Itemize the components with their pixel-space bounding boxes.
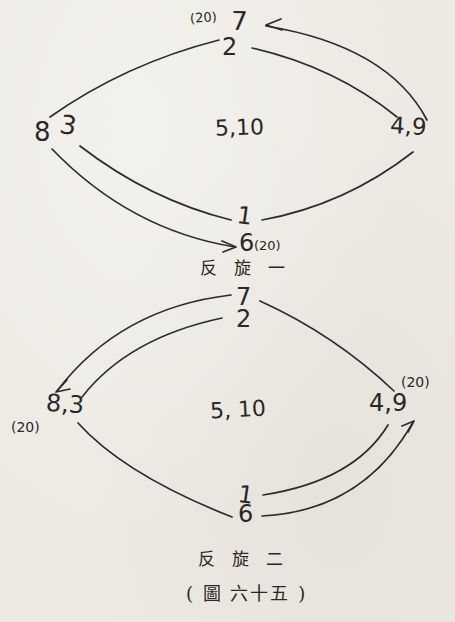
d2-arc-bottom-right-outer	[262, 424, 412, 516]
d1-arc-top-right-inner	[252, 48, 397, 117]
d1-node-6: 6	[239, 231, 254, 255]
scanned-page: (20) 7 2 8 3 5,10 4,9 1 6 (20) 反旋一 7 2 8…	[0, 0, 455, 622]
d2-arc-bottom-right-inner	[263, 425, 388, 495]
diagram-strokes	[0, 0, 455, 622]
d1-arc-top-right-outer	[266, 26, 427, 120]
d2-node-8-3: 8,3	[45, 391, 85, 418]
d2-node-4-9: 4,9	[369, 391, 407, 415]
d1-caption: 反旋一	[200, 260, 302, 277]
d1-node-2: 2	[222, 35, 237, 59]
d1-node-4-9: 4,9	[389, 114, 427, 139]
d2-count-20-right: (20)	[401, 375, 430, 389]
d2-arc-bottom-left	[78, 423, 232, 517]
d2-caption: 反旋二	[198, 551, 300, 568]
figure-caption: ( 圖 六十五 )	[186, 585, 307, 603]
d1-node-5-10: 5,10	[215, 116, 265, 140]
d1-arc-top-left	[50, 40, 219, 117]
d2-count-20-left: (20)	[11, 420, 40, 434]
d2-arc-top-left-outer	[57, 295, 231, 391]
d1-arc-bottom-right	[262, 152, 413, 220]
d1-node-8: 8	[34, 119, 51, 145]
d1-count-20-bottom: (20)	[254, 239, 281, 252]
d1-count-20-top: (20)	[190, 10, 218, 25]
d1-node-7: 7	[231, 8, 248, 35]
d2-node-2: 2	[236, 307, 251, 331]
d2-node-6: 6	[238, 502, 253, 526]
d2-arrowhead-up-right-icon	[402, 421, 414, 432]
d1-arc-bottom-left-inner	[80, 146, 231, 220]
d1-arc-bottom-left-outer	[52, 149, 235, 247]
d2-arc-top-right	[260, 301, 394, 391]
d2-arc-top-left-inner	[82, 318, 222, 397]
d2-node-5-10: 5, 10	[209, 398, 266, 423]
